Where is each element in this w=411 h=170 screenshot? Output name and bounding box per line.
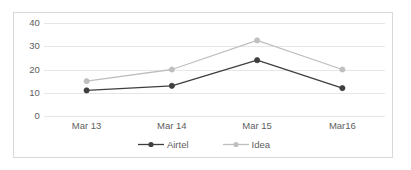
legend-label: Airtel — [167, 140, 189, 150]
data-point-idea[interactable] — [340, 67, 345, 72]
data-point-idea[interactable] — [84, 79, 89, 84]
chart-card: 010203040 Mar 13Mar 14Mar 15Mar16 Airtel… — [13, 12, 393, 158]
data-point-airtel[interactable] — [255, 58, 260, 63]
legend-item-airtel[interactable]: Airtel — [138, 140, 189, 150]
data-point-airtel[interactable] — [84, 88, 89, 93]
y-tick-label: 40 — [18, 18, 40, 28]
x-tick-label: Mar 13 — [72, 121, 102, 131]
y-axis-tick-labels: 010203040 — [14, 23, 40, 116]
plot-area — [44, 23, 385, 116]
data-point-airtel[interactable] — [169, 83, 174, 88]
x-tick-label: Mar16 — [329, 121, 356, 131]
y-tick-label: 10 — [18, 88, 40, 98]
data-point-airtel[interactable] — [340, 86, 345, 91]
x-axis-tick-labels: Mar 13Mar 14Mar 15Mar16 — [44, 121, 385, 135]
series-plot — [44, 23, 385, 116]
data-point-idea[interactable] — [255, 38, 260, 43]
legend-item-idea[interactable]: Idea — [223, 140, 271, 150]
legend-marker-icon — [223, 140, 249, 149]
gridline-0 — [44, 116, 385, 117]
chart-legend: AirtelIdea — [14, 140, 394, 150]
y-tick-label: 0 — [18, 111, 40, 121]
x-tick-label: Mar 15 — [242, 121, 272, 131]
legend-label: Idea — [252, 140, 271, 150]
x-tick-label: Mar 14 — [157, 121, 187, 131]
y-tick-label: 20 — [18, 65, 40, 75]
y-tick-label: 30 — [18, 41, 40, 51]
legend-marker-icon — [138, 140, 164, 149]
data-point-idea[interactable] — [169, 67, 174, 72]
